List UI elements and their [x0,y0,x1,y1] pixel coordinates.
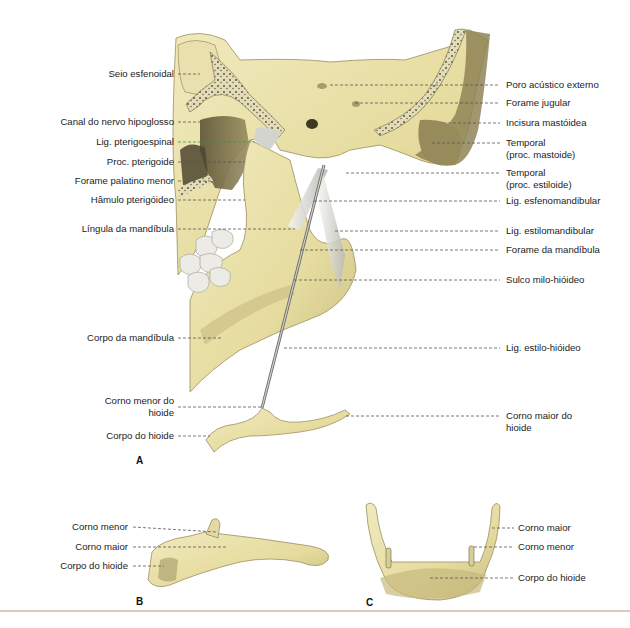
label-line-2: (proc. mastoide) [506,149,575,161]
label-incisura-mastoidea: Incisura mastóidea [506,117,587,129]
label-lig-estilo-hioideo: Lig. estilo-hióideo [506,342,581,354]
panel-letter-a: A [136,455,143,466]
label-c-corno-menor: Corno menor [518,541,574,553]
label-line-1: Temporal [506,137,575,149]
page-divider [0,610,630,612]
label-poro-acustico-externo: Poro acústico externo [506,79,599,91]
hyoid-b [148,519,329,587]
label-b-corno-maior: Corno maior [75,541,128,553]
label-line-1: Corno maior do [506,410,572,422]
label-corpo-hioide-a: Corpo do hioide [106,430,174,442]
label-corno-maior-hioide: Corno maior do hioide [506,410,572,434]
label-lig-esfenomandibular: Lig. esfenomandibular [506,195,600,207]
hyoid-a [206,408,350,452]
label-lig-estilomandibular: Lig. estilomandibular [506,225,594,237]
label-seio-esfenoidal: Seio esfenoidal [108,68,174,80]
label-c-corpo-hioide: Corpo do hioide [518,572,586,584]
panel-letter-c: C [366,597,373,608]
label-line-2: hioide [506,422,572,434]
panel-letter-b: B [136,596,143,607]
label-proc-pterigoide: Proc. pterigoide [107,156,174,168]
label-line-1: Temporal [506,167,572,179]
label-hamulo-pterigoideo: Hâmulo pterigóideo [91,194,174,206]
label-forame-mandibula: Forame da mandíbula [506,244,600,256]
label-temporal-proc-mastoide: Temporal (proc. mastoide) [506,137,575,161]
label-forame-jugular: Forame jugular [506,97,571,109]
label-sulco-milo-hioideo: Sulco milo-hióideo [506,274,584,286]
label-line-2: (proc. estiloide) [506,179,572,191]
label-lig-pterigoespinal: Lig. pterigoespinal [96,136,174,148]
label-temporal-proc-estiloide: Temporal (proc. estiloide) [506,167,572,191]
label-corpo-mandibula: Corpo da mandíbula [87,332,174,344]
label-b-corno-menor: Corno menor [72,521,128,533]
label-c-corno-maior: Corno maior [518,522,571,534]
label-corno-menor-hioide: Corno menor do hioide [105,395,174,419]
label-lingula-mandibula: Língula da mandíbula [82,223,174,235]
label-canal-nervo-hipoglosso: Canal do nervo hipoglosso [60,116,174,128]
label-forame-palatino-menor: Forame palatino menor [75,175,174,187]
label-b-corpo-hioide: Corpo do hioide [60,560,128,572]
label-line-2: hioide [105,407,174,419]
label-line-1: Corno menor do [105,395,174,407]
hyoid-c [366,503,500,600]
